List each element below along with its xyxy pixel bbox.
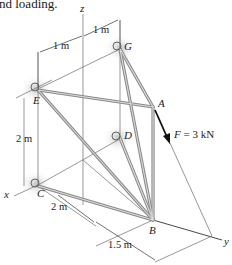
dim-ext-y	[155, 236, 212, 262]
label-axis-z: z	[79, 2, 85, 14]
truss-figure: G E A D C B z x y 1 m 1 m 2 m 2 m 1.5 m …	[0, 0, 232, 265]
support-shadows	[20, 34, 136, 198]
label-axis-y: y	[223, 235, 229, 247]
c-d-line	[40, 140, 118, 184]
label-point-D: D	[123, 129, 132, 141]
label-force: F = 3 kN	[173, 128, 214, 140]
label-point-A: A	[157, 97, 165, 109]
label-dim-top-left: 1 m	[53, 40, 69, 51]
label-point-G: G	[124, 40, 132, 52]
y-axis-line	[153, 220, 222, 240]
label-dim-bottom-y: 1.5 m	[108, 239, 132, 250]
truss-diagram: nd loading.	[0, 0, 232, 265]
force-arrow-icon	[155, 110, 170, 144]
label-dim-bottom-x: 2 m	[51, 201, 67, 212]
label-point-E: E	[32, 94, 40, 106]
label-axis-x: x	[3, 188, 9, 200]
force-line-of-action	[170, 143, 212, 236]
label-dim-vertical: 2 m	[16, 133, 32, 144]
label-point-C: C	[37, 187, 45, 199]
force-value: = 3 kN	[181, 128, 214, 140]
label-point-B: B	[149, 224, 156, 236]
label-dim-top-right: 1 m	[93, 24, 109, 35]
caption-text: nd loading.	[0, 0, 58, 12]
e-g-line	[40, 50, 118, 88]
supports	[31, 42, 121, 187]
truss-members	[38, 49, 153, 220]
